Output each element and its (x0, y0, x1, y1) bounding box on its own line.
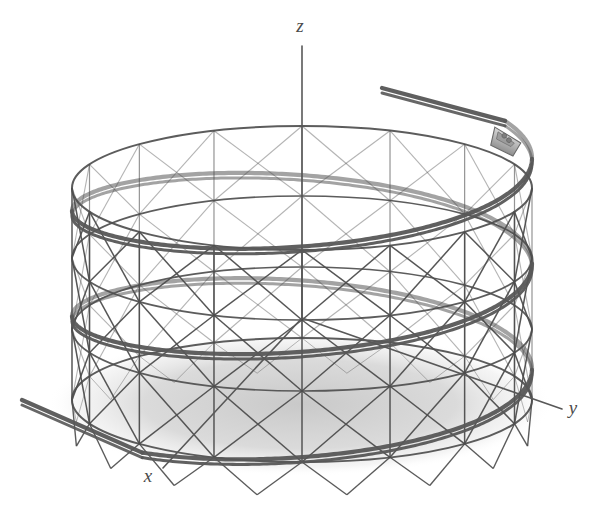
y-axis-label: y (567, 397, 578, 418)
brace-diagonal (465, 234, 515, 285)
x-axis-label: x (143, 465, 153, 486)
figure-canvas: z y x (0, 0, 606, 512)
track-entry-segment (382, 88, 505, 121)
track-entry-segment (382, 93, 505, 126)
helical-track-figure: z y x (0, 0, 606, 512)
brace-diagonal (90, 212, 140, 302)
z-axis-label: z (295, 15, 304, 36)
brace-diagonal (465, 232, 515, 282)
brace-diagonal (214, 126, 302, 201)
brace-diagonal (390, 144, 465, 201)
